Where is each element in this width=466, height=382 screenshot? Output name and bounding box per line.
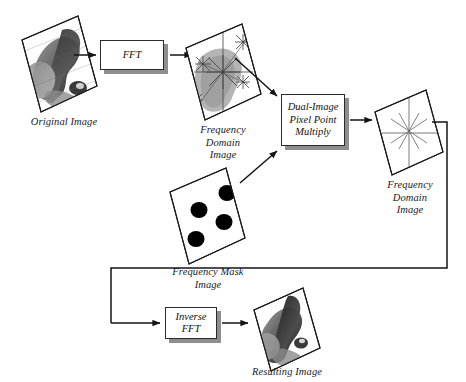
fft-label: FFT (123, 49, 142, 62)
original-image-caption: Original Image (10, 116, 118, 129)
fft-process-box[interactable]: FFT (100, 40, 164, 70)
inverse-fft-label: Inverse FFT (176, 311, 207, 336)
resulting-image-plane (254, 288, 320, 371)
dual-image-multiply-process-box[interactable]: Dual-Image Pixel Point Multiply (281, 94, 345, 146)
dual-image-multiply-label: Dual-Image Pixel Point Multiply (288, 101, 339, 139)
inverse-fft-process-box[interactable]: Inverse FFT (165, 307, 217, 339)
frequency-mask-image-caption: Frequency Mask Image (152, 266, 264, 291)
frequency-domain-image-1-caption: Frequency Domain Image (177, 124, 269, 162)
original-image-plane (22, 16, 103, 112)
frequency-mask-image-plane (170, 168, 245, 264)
frequency-domain-image-2-plane (375, 90, 443, 175)
frequency-domain-image-2-caption: Frequency Domain Image (364, 179, 456, 217)
diagram-canvas: FFT Dual-Image Pixel Point Multiply Inve… (0, 0, 466, 382)
resulting-image-caption: Resulting Image (228, 366, 346, 379)
